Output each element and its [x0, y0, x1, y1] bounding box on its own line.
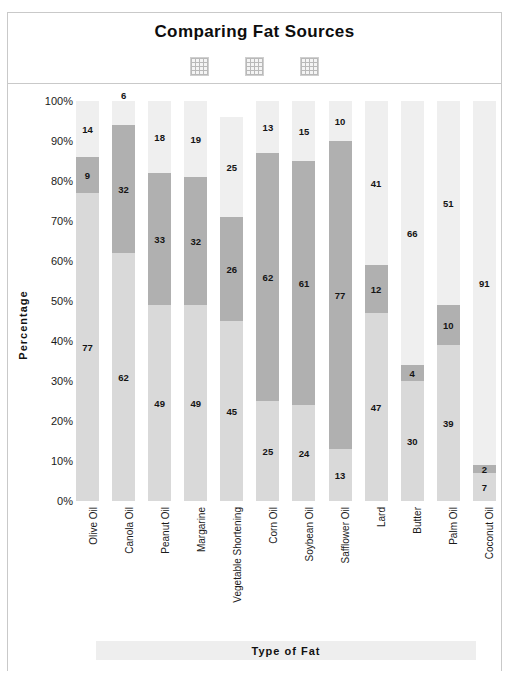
bar-segment-value-label: 47 [365, 402, 388, 413]
bar-segment-value-label: 39 [437, 418, 460, 429]
bar-segment[interactable]: 14 [76, 101, 99, 157]
x-axis-category-label-text: Coconut Oil [484, 507, 495, 559]
bar-segment[interactable]: 77 [76, 193, 99, 501]
bar-segment[interactable]: 9 [76, 157, 99, 193]
bar-column[interactable]: 493318 [148, 101, 171, 501]
bar-segment[interactable]: 25 [220, 117, 243, 217]
x-axis-title-band: Type of Fat [96, 641, 476, 660]
y-axis-tick-label: 50% [51, 295, 73, 307]
bar-column[interactable]: 471241 [365, 101, 388, 501]
bar-segment[interactable]: 51 [437, 101, 460, 305]
bar-segment[interactable]: 30 [401, 381, 424, 501]
bar-segment[interactable]: 4 [401, 365, 424, 381]
bar-column[interactable]: 391051 [437, 101, 460, 501]
y-axis-tick-label: 20% [51, 415, 73, 427]
y-axis-tick-label: 60% [51, 255, 73, 267]
x-axis-category-label-text: Canola Oil [124, 507, 135, 554]
x-axis-category-label: Margarine [184, 505, 207, 627]
y-axis-tick-label: 100% [45, 95, 73, 107]
x-axis-category-label: Palm Oil [437, 505, 460, 627]
bar-column[interactable]: 7291 [473, 101, 496, 501]
x-axis-category-label: Olive Oil [76, 505, 99, 627]
bar-segment[interactable]: 62 [256, 153, 279, 401]
bar-segment[interactable]: 10 [437, 305, 460, 345]
bar-column[interactable]: 62326 [112, 101, 135, 501]
bar-segment[interactable]: 39 [437, 345, 460, 501]
bar-segment[interactable]: 49 [148, 305, 171, 501]
bar-segment-value-label: 32 [184, 236, 207, 247]
bar-segment-value-label: 32 [112, 184, 135, 195]
bar-column[interactable]: 493219 [184, 101, 207, 501]
bar-segment-value-label: 10 [437, 320, 460, 331]
x-axis-category-label-text: Corn Oil [268, 507, 279, 544]
x-axis-category-label: Canola Oil [112, 505, 135, 627]
bar-segment[interactable]: 77 [329, 141, 352, 449]
bar-segment[interactable]: 61 [292, 161, 315, 405]
bar-column[interactable]: 30466 [401, 101, 424, 501]
chart-title-band: Comparing Fat Sources [8, 13, 501, 84]
bar-segment[interactable]: 45 [220, 321, 243, 501]
bar-segment[interactable]: 32 [184, 177, 207, 305]
bar-segment-value-label: 45 [220, 406, 243, 417]
x-axis-category-label-text: Safflower Oil [340, 507, 351, 564]
bar-column[interactable]: 246115 [292, 101, 315, 501]
bar-segment-value-label: 33 [148, 234, 171, 245]
bar-segment-value-label: 30 [401, 436, 424, 447]
bar-segment[interactable]: 91 [473, 101, 496, 465]
y-axis-tick-label: 70% [51, 215, 73, 227]
bar-segment[interactable]: 41 [365, 101, 388, 265]
bar-column[interactable]: 77914 [76, 101, 99, 501]
bar-segment-value-label: 77 [76, 342, 99, 353]
y-axis-tick-label: 90% [51, 135, 73, 147]
legend-swatch-2-icon [245, 57, 264, 76]
x-axis-title-text: Type of Fat [252, 645, 321, 657]
x-axis-category-label-text: Lard [376, 507, 387, 527]
bar-segment[interactable]: 12 [365, 265, 388, 313]
bar-segment-value-label: 6 [112, 90, 135, 101]
bar-segment[interactable]: 32 [112, 125, 135, 253]
legend-swatch-1-icon [190, 57, 209, 76]
chart-legend [8, 57, 501, 81]
x-axis-category-label-text: Butter [412, 507, 423, 534]
bar-segment[interactable]: 7 [473, 473, 496, 501]
x-axis-category-label: Lard [365, 505, 388, 627]
bar-segment-value-label: 13 [329, 470, 352, 481]
bar-segment[interactable]: 13 [256, 101, 279, 153]
bar-segment[interactable]: 66 [401, 101, 424, 365]
bar-segment[interactable]: 25 [256, 401, 279, 501]
bar-segment[interactable]: 26 [220, 217, 243, 321]
bar-group: 7791462326493318493219452625256213246115… [76, 101, 496, 501]
bar-segment-value-label: 62 [256, 272, 279, 283]
bar-segment-value-label: 19 [184, 134, 207, 145]
bar-column[interactable]: 452625 [220, 101, 243, 501]
y-axis-tick-label: 0% [57, 495, 73, 507]
bar-segment[interactable]: 10 [329, 101, 352, 141]
x-axis-category-label: Safflower Oil [329, 505, 352, 627]
bar-segment[interactable]: 33 [148, 173, 171, 305]
bar-segment-value-label: 49 [148, 398, 171, 409]
bar-segment[interactable]: 2 [473, 465, 496, 473]
y-axis-title: Percentage [14, 235, 32, 415]
bar-segment[interactable]: 47 [365, 313, 388, 501]
bar-segment[interactable]: 18 [148, 101, 171, 173]
bar-segment[interactable]: 13 [329, 449, 352, 501]
x-axis-category-label: Soybean Oil [292, 505, 315, 627]
bar-segment[interactable]: 15 [292, 101, 315, 161]
bar-column[interactable]: 256213 [256, 101, 279, 501]
bar-segment[interactable]: 24 [292, 405, 315, 501]
bar-segment-value-label: 25 [256, 446, 279, 457]
bar-column[interactable]: 137710 [329, 101, 352, 501]
bar-segment[interactable]: 49 [184, 305, 207, 501]
y-axis-ticks: 100%90%80%70%60%50%40%30%20%10%0% [32, 85, 76, 501]
bar-segment-value-label: 24 [292, 448, 315, 459]
bar-segment-value-label: 61 [292, 278, 315, 289]
bar-segment-value-label: 2 [473, 464, 496, 475]
bar-segment[interactable]: 19 [184, 101, 207, 177]
bar-segment-value-label: 91 [473, 278, 496, 289]
bar-segment[interactable]: 6 [112, 101, 135, 125]
bar-segment-value-label: 25 [220, 162, 243, 173]
bar-segment[interactable]: 62 [112, 253, 135, 501]
x-axis-category-label: Peanut Oil [148, 505, 171, 627]
bar-segment-value-label: 9 [76, 170, 99, 181]
y-axis-tick-label: 10% [51, 455, 73, 467]
